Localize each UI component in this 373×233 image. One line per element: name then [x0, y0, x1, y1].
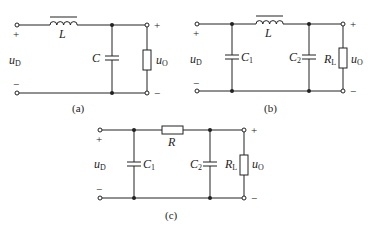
- terminal: [341, 89, 345, 93]
- output-voltage-label: uO: [351, 52, 363, 67]
- inductor-a: [50, 22, 77, 25]
- minus-sign: −: [154, 87, 160, 99]
- terminal: [98, 128, 102, 132]
- filter-circuits-figure: + − + − uD uO L C (a): [0, 0, 373, 233]
- resistor-r-c: [162, 126, 183, 134]
- terminal: [341, 22, 345, 26]
- output-voltage-label: uO: [156, 53, 168, 68]
- terminal: [98, 196, 102, 200]
- caption-c: (c): [165, 209, 178, 222]
- minus-sign: −: [193, 77, 199, 89]
- node-dot: [132, 128, 136, 132]
- minus-sign: −: [96, 183, 102, 195]
- plus-sign: +: [193, 27, 199, 39]
- caption-b: (b): [264, 102, 277, 115]
- resistor-rl-c: [240, 155, 248, 175]
- plus-sign: +: [251, 124, 257, 136]
- minus-sign: −: [13, 78, 19, 90]
- circuit-a: + − + − uD uO L C (a): [9, 17, 168, 115]
- inductor-label: L: [264, 26, 272, 40]
- plus-sign: +: [154, 19, 160, 31]
- node-dot: [110, 91, 114, 95]
- inductor-b: [256, 21, 283, 24]
- plus-sign: +: [13, 28, 19, 40]
- input-voltage-label: uD: [94, 157, 106, 172]
- circuit-c: + − + − uD uO C1 R C2 RL (c): [94, 124, 264, 222]
- resistor-a: [143, 50, 151, 70]
- load-resistor-label: RL: [224, 157, 237, 172]
- input-voltage-label: uD: [190, 52, 202, 67]
- node-dot: [230, 89, 234, 93]
- terminal: [242, 196, 246, 200]
- minus-sign: −: [350, 85, 356, 97]
- input-voltage-label: uD: [9, 53, 21, 68]
- circuit-b: + − + − uD uO C1 L C2 RL (b): [190, 16, 363, 115]
- terminal: [145, 23, 149, 27]
- terminal: [15, 91, 19, 95]
- node-dot: [110, 23, 114, 27]
- minus-sign: −: [251, 192, 257, 204]
- node-dot: [208, 128, 212, 132]
- load-resistor-label: RL: [323, 52, 336, 67]
- terminal: [242, 128, 246, 132]
- terminal: [195, 22, 199, 26]
- terminal: [145, 91, 149, 95]
- plus-sign: +: [350, 18, 356, 30]
- caption-a: (a): [72, 102, 85, 115]
- capacitor-c1-label: C1: [143, 157, 155, 172]
- node-dot: [132, 196, 136, 200]
- resistor-rl-b: [339, 48, 347, 68]
- terminal: [15, 23, 19, 27]
- capacitor-label: C: [92, 51, 101, 65]
- capacitor-c2-label: C2: [190, 157, 202, 172]
- capacitor-c1-label: C1: [241, 50, 253, 65]
- resistor-label: R: [167, 135, 176, 149]
- node-dot: [307, 22, 311, 26]
- capacitor-c2-label: C2: [289, 50, 301, 65]
- node-dot: [307, 89, 311, 93]
- plus-sign: +: [96, 133, 102, 145]
- node-dot: [208, 196, 212, 200]
- terminal: [195, 89, 199, 93]
- inductor-label: L: [58, 27, 66, 41]
- node-dot: [230, 22, 234, 26]
- output-voltage-label: uO: [252, 157, 264, 172]
